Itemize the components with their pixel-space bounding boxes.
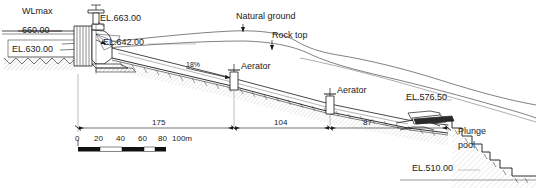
el-630-label: EL.630.00 — [12, 44, 53, 54]
dimension-87: 87 — [363, 118, 372, 128]
reservoir-bed-hatch — [4, 58, 76, 70]
plunge-pool-label-line1: Plunge — [458, 126, 486, 136]
wl-max-value-label: 660.00 — [22, 25, 50, 35]
aerator-upper-label: Aerator — [241, 61, 271, 71]
scale-tick-20: 20 — [94, 134, 103, 144]
el-642-label: EL.642.00 — [103, 37, 144, 47]
scale-tick-100m: 100m — [172, 134, 192, 144]
slope-label: 18% — [186, 60, 200, 70]
drawing-canvas — [0, 0, 537, 188]
el-576-label: EL.576.50 — [406, 92, 447, 102]
scale-tick-40: 40 — [116, 134, 125, 144]
el-663-label: EL.663.00 — [100, 13, 141, 23]
scale-tick-60: 60 — [138, 134, 147, 144]
el-510-label: EL.510.00 — [412, 163, 453, 173]
natural-ground-label: Natural ground — [236, 11, 296, 21]
aerator-lower-label: Aerator — [337, 85, 367, 95]
wl-max-label: WLmax — [22, 6, 53, 16]
dam-cross-section-drawing: WLmax 660.00 EL.630.00 EL.663.00 EL.642.… — [0, 0, 537, 188]
dimension-175: 175 — [152, 118, 165, 128]
plunge-pool-label-line2: pool — [458, 140, 475, 150]
scale-tick-80: 80 — [158, 134, 167, 144]
scale-tick-0: 0 — [75, 134, 79, 144]
rock-top-label: Rock top — [272, 30, 308, 40]
dimension-104: 104 — [274, 118, 287, 128]
